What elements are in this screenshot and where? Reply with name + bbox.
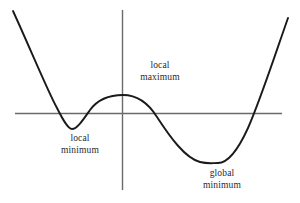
annotation-local-minimum-line2: minimum: [61, 145, 99, 157]
annotation-local-maximum-line1: local: [140, 60, 180, 72]
annotation-local-maximum-line2: maximum: [140, 72, 180, 84]
function-graph-figure: local maximum local minimum global minim…: [0, 0, 300, 203]
annotation-global-minimum-line2: minimum: [203, 180, 241, 192]
annotation-local-minimum-line1: local: [61, 133, 99, 145]
annotation-local-minimum: local minimum: [61, 133, 99, 156]
annotation-global-minimum: global minimum: [203, 168, 241, 191]
annotation-local-maximum: local maximum: [140, 60, 180, 83]
plot-canvas: [0, 0, 300, 203]
annotation-global-minimum-line1: global: [203, 168, 241, 180]
function-curve: [13, 11, 288, 163]
